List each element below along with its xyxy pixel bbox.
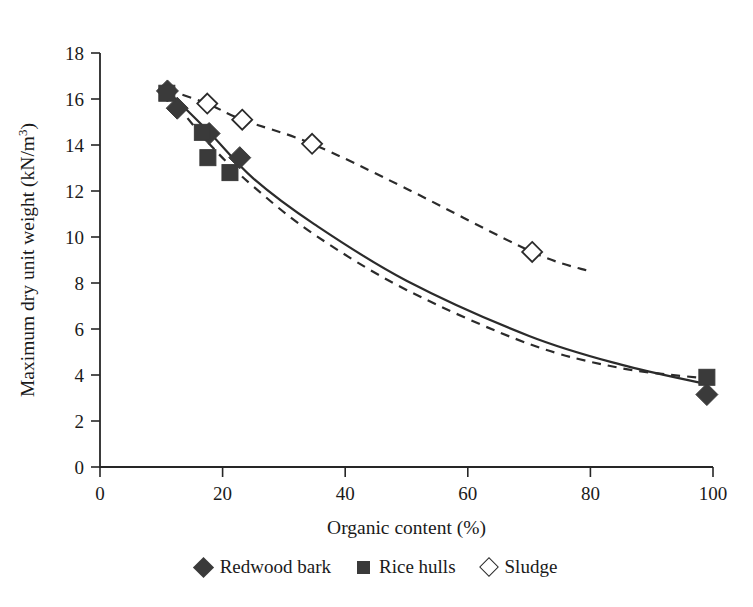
y-tick-label: 4: [75, 365, 85, 386]
legend-label-redwood-bark: Redwood bark: [220, 556, 331, 578]
x-axis-title: Organic content (%): [327, 517, 486, 539]
x-tick-label: 80: [581, 483, 600, 504]
series-markers-rice-hulls: [699, 369, 715, 385]
x-tick-label: 40: [336, 483, 355, 504]
y-tick-label: 14: [65, 135, 85, 156]
series-markers-sludge: [302, 134, 322, 154]
legend-item-rice-hulls: Rice hulls: [357, 556, 456, 578]
y-tick-label: 0: [75, 457, 85, 478]
legend-item-sludge: Sludge: [482, 556, 558, 578]
y-tick-label: 10: [65, 227, 84, 248]
y-tick-label: 16: [65, 89, 84, 110]
filled-square-icon: [357, 561, 370, 574]
chart-legend: Redwood bark Rice hulls Sludge: [0, 556, 753, 578]
y-axis-title: Maximum dry unit weight (kN/m3): [15, 123, 40, 397]
y-tick-label: 8: [75, 273, 85, 294]
y-tick-label: 6: [75, 319, 85, 340]
legend-label-rice-hulls: Rice hulls: [379, 556, 456, 578]
y-tick-label: 18: [65, 43, 84, 64]
x-tick-label: 60: [458, 483, 477, 504]
legend-label-sludge: Sludge: [505, 556, 558, 578]
chart-figure: 024681012141618020406080100Organic conte…: [0, 0, 753, 607]
series-markers-rice-hulls: [159, 85, 175, 101]
trend-line-redwood-bark: [167, 91, 706, 384]
series-markers-sludge: [522, 242, 542, 262]
y-tick-label: 2: [75, 411, 85, 432]
series-markers-rice-hulls: [200, 150, 216, 166]
filled-diamond-icon: [193, 556, 214, 577]
series-markers-rice-hulls: [222, 165, 238, 181]
x-tick-label: 100: [699, 483, 728, 504]
series-markers-rice-hulls: [194, 124, 210, 140]
series-markers-sludge: [232, 110, 252, 130]
x-tick-label: 0: [95, 483, 105, 504]
plot-area: 024681012141618020406080100Organic conte…: [0, 0, 753, 607]
series-markers-redwood-bark: [696, 384, 718, 406]
series-markers-sludge: [197, 94, 217, 114]
legend-item-redwood-bark: Redwood bark: [196, 556, 331, 578]
x-tick-label: 20: [213, 483, 232, 504]
trend-line-rice-hulls: [167, 93, 706, 378]
y-tick-label: 12: [65, 181, 84, 202]
open-diamond-icon: [479, 557, 499, 577]
